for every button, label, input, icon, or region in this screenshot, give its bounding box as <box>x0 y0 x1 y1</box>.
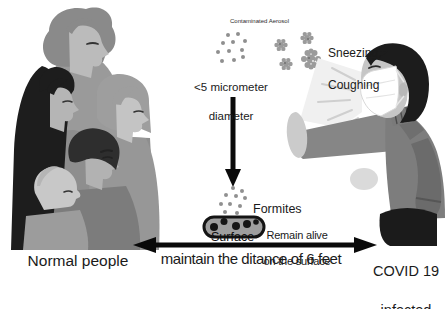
covid-person-label: COVID 19 infected person <box>366 242 446 309</box>
covid-line2: infected <box>366 301 446 309</box>
pants <box>379 208 437 246</box>
aerosol-size-line2: diameter <box>185 109 277 124</box>
formites-label: Formites <box>253 202 302 216</box>
covid-transmission-diagram: Contaminated Aerosol <5 micrometer diame… <box>0 0 446 309</box>
surface-label: Surface <box>211 230 254 244</box>
aerosol-size-label: <5 micrometer diameter <box>185 65 277 138</box>
remain-alive-line1: Remain alive <box>262 229 332 242</box>
aerosol-dots <box>216 32 247 63</box>
distance-label: maintain the ditance of 6 feet <box>146 250 356 267</box>
remain-alive-note: Remain alive on the surface <box>262 216 332 281</box>
aerosol-size-line1: <5 micrometer <box>185 80 277 95</box>
contaminated-aerosol-label: Contaminated Aerosol <box>207 18 312 24</box>
normal-people-label: Normal people <box>18 252 138 270</box>
symptoms-line1: Sneezing, <box>328 45 381 61</box>
falling-dots <box>219 186 247 215</box>
sneezing-coughing-label: Sneezing, Coughing <box>328 29 381 109</box>
normal-people-illustration <box>11 8 159 250</box>
virus-particles <box>274 32 321 70</box>
covid-line1: COVID 19 <box>366 262 446 282</box>
kid-body <box>23 210 88 250</box>
symptoms-line2: Coughing <box>328 77 381 93</box>
